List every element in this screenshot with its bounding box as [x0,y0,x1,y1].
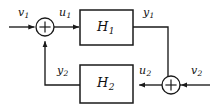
block-h1-subscript: 1 [109,26,115,36]
signal-v2-letter: v [191,64,197,77]
block-h1-label: H1 [97,20,114,33]
block-h2-subscript: 2 [109,82,115,92]
signal-v2-subscript: 2 [198,69,203,78]
signal-v1-letter: v [18,6,24,19]
signal-y1-subscript: 1 [150,11,155,20]
block-h2-letter: H [97,75,108,90]
signal-u2-subscript: 2 [146,69,151,78]
signal-y2-letter: y [57,64,63,77]
signal-y1-letter: y [143,6,149,19]
block-h1-letter: H [97,19,108,34]
signal-label-y2: y2 [57,65,68,76]
block-diagram-canvas: H1 H2 v1 u1 y1 y2 u2 v2 [0,0,216,111]
signal-label-v2: v2 [191,65,202,76]
signal-v1-subscript: 1 [25,11,30,20]
signal-label-u2: u2 [139,65,151,76]
signal-label-u1: u1 [59,7,71,18]
signal-y2-subscript: 2 [64,69,69,78]
diagram-vector-layer [0,0,216,111]
signal-u1-subscript: 1 [66,11,71,20]
signal-label-y1: y1 [143,7,154,18]
block-h2-label: H2 [97,76,114,89]
signal-label-v1: v1 [18,7,29,18]
